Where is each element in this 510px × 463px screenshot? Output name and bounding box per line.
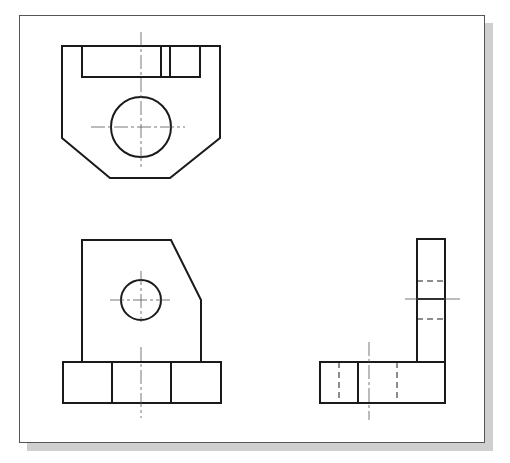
right-side-view	[320, 239, 445, 403]
orthographic-drawing	[0, 0, 510, 463]
top-view-slot-right	[170, 46, 200, 77]
front-view-base	[63, 362, 221, 403]
front-view-centerlines	[110, 271, 172, 418]
front-view-upright	[82, 240, 201, 362]
front-view	[63, 240, 221, 403]
side-view-upright	[417, 239, 445, 362]
side-view-centerlines	[369, 299, 460, 420]
top-view-slot	[82, 46, 161, 77]
